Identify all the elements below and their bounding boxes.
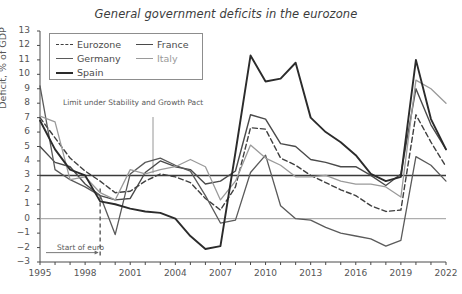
legend-label-spain: Spain — [77, 66, 104, 79]
legend-swatch-france — [136, 44, 153, 45]
legend-swatch-spain — [56, 72, 73, 74]
legend-item-germany[interactable]: Germany — [56, 52, 136, 65]
legend-label-germany: Germany — [77, 52, 121, 65]
legend-item-italy[interactable]: Italy — [136, 52, 206, 65]
legend-label-italy: Italy — [157, 52, 178, 65]
legend-swatch-germany — [56, 58, 73, 59]
legend-swatch-eurozone — [56, 44, 73, 45]
annotation-stability-pact: Limit under Stability and Growth Pact — [63, 98, 175, 108]
legend-item-spain[interactable]: Spain — [56, 66, 136, 79]
legend-item-eurozone[interactable]: Eurozone — [56, 38, 136, 51]
series-line-spain — [40, 56, 446, 249]
legend-swatch-italy — [136, 58, 153, 59]
legend-label-france: France — [157, 38, 189, 51]
legend-label-eurozone: Eurozone — [77, 38, 121, 51]
legend: EurozoneFranceGermanyItalySpain — [49, 33, 203, 80]
legend-item-france[interactable]: France — [136, 38, 206, 51]
annotation-start-of-euro: Start of euro — [57, 243, 125, 253]
